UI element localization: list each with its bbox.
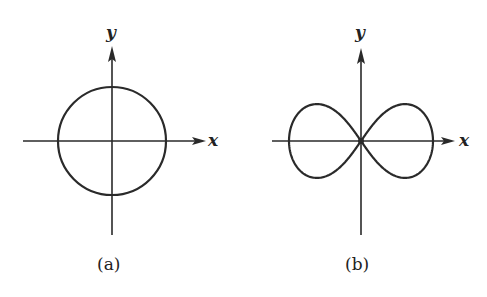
y-axis-label: y: [105, 22, 117, 42]
panel-b-caption: (b): [345, 254, 369, 274]
x-axis-label: x: [207, 130, 219, 150]
origin-dot: [358, 138, 364, 144]
figure: x y (a) x y (b): [0, 0, 487, 297]
y-axis-label: y: [354, 22, 366, 42]
panel-a: x y (a): [23, 22, 219, 274]
panel-a-caption: (a): [97, 254, 120, 274]
x-axis-label: x: [458, 130, 470, 150]
panel-b: x y (b): [272, 22, 470, 274]
